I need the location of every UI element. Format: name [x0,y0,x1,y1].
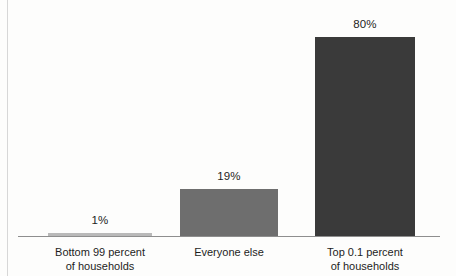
bar-top-0-1-percent[interactable] [315,37,415,236]
x-tick-label-top-0-1-percent: Top 0.1 percent of households [300,245,430,273]
bar-bottom-99-percent[interactable] [48,233,152,236]
x-tick-label-bottom-99-percent: Bottom 99 percent of households [30,245,170,273]
x-tick-label-line-1: Top 0.1 percent [300,245,430,259]
value-label-everyone-else: 19% [180,170,278,182]
bar-everyone-else[interactable] [180,189,278,236]
x-tick-label-line-1: Bottom 99 percent [30,245,170,259]
value-label-bottom-99-percent: 1% [48,214,152,226]
value-label-top-0-1-percent: 80% [315,18,415,30]
bar-chart-plot-area: 1% 19% 80% Bottom 99 percent of househol… [0,0,456,276]
x-axis-baseline [18,236,440,237]
x-tick-label-line-2: of households [300,259,430,273]
chart-page: 1% 19% 80% Bottom 99 percent of househol… [0,0,456,276]
x-tick-label-everyone-else: Everyone else [165,245,293,259]
x-tick-label-line-2: of households [30,259,170,273]
x-tick-label-line-1: Everyone else [165,245,293,259]
